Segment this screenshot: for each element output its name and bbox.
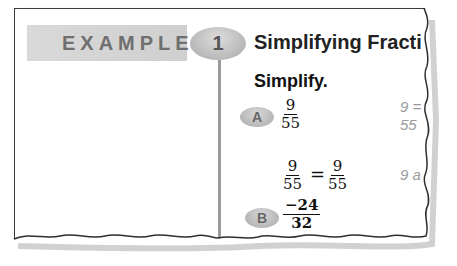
torn-edge [0, 0, 457, 266]
